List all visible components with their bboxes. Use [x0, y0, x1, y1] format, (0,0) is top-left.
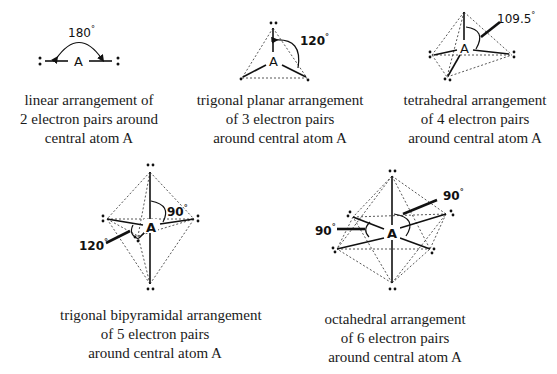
lone-pair-top: [389, 170, 397, 173]
bond-equatorial-right: [160, 219, 194, 224]
caption-line: around central atom A: [60, 344, 250, 363]
angle-label-120: 120°: [79, 238, 108, 253]
angle-label-90-left: 90°: [315, 223, 336, 238]
lone-pair-left: [429, 51, 432, 59]
caption-line: around central atom A: [195, 129, 365, 148]
caption-line: of 6 electron pairs: [320, 329, 470, 348]
caption-line: of 5 electron pairs: [60, 325, 250, 344]
caption-line: trigonal bipyramidal arrangement: [60, 306, 250, 325]
bond-left: [243, 65, 266, 77]
bond-equatorial-left: [107, 219, 143, 225]
tetrahedral-structure: A 109.5°: [429, 11, 536, 81]
angle-label-90: 90°: [167, 204, 188, 219]
lone-pair-bottom: [389, 288, 397, 291]
central-atom-label: A: [269, 54, 278, 69]
lone-pair-left: [39, 57, 42, 66]
caption-linear: linear arrangement of 2 electron pairs a…: [14, 91, 164, 148]
angle-arc-90-left: [366, 222, 370, 237]
central-atom-label: A: [74, 54, 83, 69]
trigonal-bipyramidal-structure: A 90° 120°: [79, 164, 199, 291]
angle-label-109-5: 109.5°: [497, 11, 535, 26]
caption-line: around central atom A: [320, 348, 470, 367]
angle-label-120: 120°: [300, 33, 329, 48]
lone-pair-right: [307, 79, 310, 82]
bond-right: [473, 50, 509, 54]
bond-front-left: [337, 238, 384, 249]
caption-trigonal-planar: trigonal planar arrangement of 3 electro…: [195, 91, 365, 148]
bond-back-right: [400, 214, 446, 228]
lone-pair-left: [102, 215, 105, 223]
caption-tetrahedral: tetrahedral arrangement of 4 electron pa…: [400, 91, 550, 148]
lone-pair-back-left: [347, 211, 352, 218]
angle-pointer: [106, 231, 130, 243]
caption-line: octahedral arrangement: [320, 310, 470, 329]
central-atom-label: A: [146, 220, 156, 235]
caption-octahedral: octahedral arrangement of 6 electron pai…: [320, 310, 470, 367]
lone-pair-bottom: [444, 78, 452, 82]
caption-line: 2 electron pairs around: [14, 110, 164, 129]
linear-structure: 180° A: [39, 25, 120, 69]
caption-trigonal-bipyramidal: trigonal bipyramidal arrangement of 5 el…: [60, 306, 250, 363]
bond-front: [448, 55, 460, 76]
caption-line: tetrahedral arrangement: [400, 91, 550, 110]
lone-pair-bottom: [147, 288, 155, 291]
octahedral-structure: A 90° 90°: [315, 170, 464, 291]
central-atom-label: A: [460, 41, 469, 56]
lone-pair-top: [147, 164, 155, 167]
angle-arc-120: [275, 40, 299, 68]
angle-label-90-right: 90°: [443, 188, 464, 203]
caption-line: linear arrangement of: [14, 91, 164, 110]
angle-pointer-right: [403, 200, 437, 214]
lone-pair-front-left: [332, 247, 337, 254]
lone-pair-right: [513, 51, 516, 59]
lone-pair-top: [270, 22, 278, 25]
lone-pair-front-right: [431, 248, 436, 255]
caption-line: central atom A: [14, 129, 164, 148]
caption-line: of 3 electron pairs: [195, 110, 365, 129]
lone-pair-right: [197, 215, 200, 223]
caption-line: trigonal planar arrangement: [195, 91, 365, 110]
central-atom-label: A: [387, 226, 397, 241]
angle-label-180: 180°: [68, 25, 95, 40]
lone-pair-left: [240, 78, 243, 81]
trigonal-planar-structure: A 120°: [240, 22, 329, 82]
lone-pair-right: [117, 57, 120, 66]
bond-front-right: [400, 238, 430, 249]
caption-line: of 4 electron pairs: [400, 110, 550, 129]
caption-line: around central atom A: [400, 129, 550, 148]
lone-pair-back-right: [450, 210, 455, 217]
